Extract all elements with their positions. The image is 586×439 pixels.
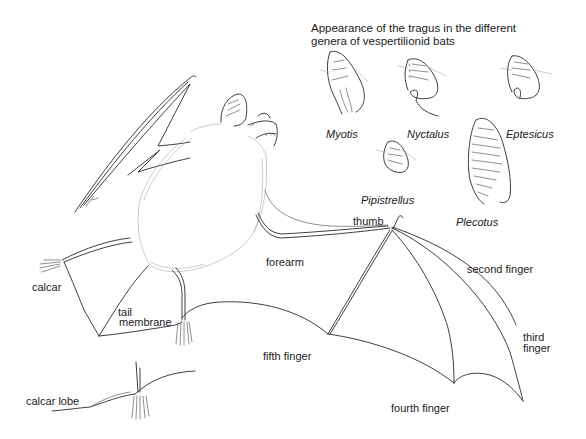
genus-label-eptesicus: Eptesicus xyxy=(506,129,554,140)
label-fifth-finger: fifth finger xyxy=(263,351,311,362)
tragus-section-title: Appearance of the tragus in the differen… xyxy=(311,22,516,48)
calcar-lobe-inset-drawing xyxy=(52,362,195,419)
tragus-myotis-drawing xyxy=(320,51,368,114)
label-second-finger: second finger xyxy=(467,264,533,275)
label-third-finger-line2: finger xyxy=(523,343,551,354)
tragus-nyctalus-drawing xyxy=(398,59,446,116)
genus-label-nyctalus: Nyctalus xyxy=(407,129,449,140)
label-tail-membrane-line2: membrane xyxy=(119,317,172,328)
title-line-1: Appearance of the tragus in the differen… xyxy=(311,22,516,35)
tragus-pipistrellus-drawing xyxy=(376,141,416,173)
genus-label-pipistrellus: Pipistrellus xyxy=(361,195,414,206)
tragus-eptesicus-drawing xyxy=(500,56,552,99)
tragus-plecotus-drawing xyxy=(468,118,510,204)
title-line-2: genera of vespertilionid bats xyxy=(311,35,516,48)
label-thumb: thumb xyxy=(353,216,384,227)
bat-anatomy-figure: Appearance of the tragus in the differen… xyxy=(0,0,586,439)
legs-tail-membrane-drawing xyxy=(40,238,192,345)
genus-label-plecotus: Plecotus xyxy=(456,217,498,228)
genus-label-myotis: Myotis xyxy=(326,129,358,140)
label-calcar: calcar xyxy=(32,282,61,293)
label-fourth-finger: fourth finger xyxy=(391,403,450,414)
label-forearm: forearm xyxy=(266,257,304,268)
bat-body-drawing xyxy=(138,124,267,272)
label-calcar-lobe: calcar lobe xyxy=(26,396,79,407)
bat-head-drawing xyxy=(221,94,277,146)
left-wing-drawing xyxy=(75,76,196,212)
